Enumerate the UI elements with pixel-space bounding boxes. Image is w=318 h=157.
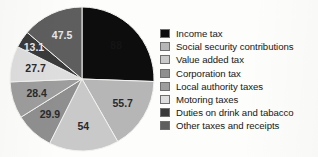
pie-slice-value-label: 88 — [110, 39, 122, 51]
legend-item[interactable]: Local authority taxes — [160, 80, 312, 93]
legend-item[interactable]: Social security contributions — [160, 40, 312, 53]
chart-legend: Income taxSocial security contributionsV… — [160, 27, 312, 133]
legend-item-label: Other taxes and receipts — [176, 120, 279, 131]
pie-slice-value-label: 47.5 — [52, 29, 73, 41]
legend-item-label: Local authority taxes — [176, 81, 263, 92]
legend-item[interactable]: Other taxes and receipts — [160, 119, 312, 132]
pie-chart-plot-area: 8855.75429.928.427.713.147.5 — [8, 4, 156, 154]
legend-color-swatch — [160, 95, 170, 104]
legend-item-label: Corporation tax — [176, 68, 241, 79]
pie-slice-value-label: 28.4 — [26, 87, 47, 99]
legend-item-label: Value added tax — [176, 54, 244, 65]
pie-slice-value-label: 55.7 — [112, 97, 133, 109]
legend-item-label: Duties on drink and tabacco — [176, 107, 294, 118]
pie-slice-value-label: 27.7 — [25, 62, 46, 74]
legend-color-swatch — [160, 108, 170, 117]
pie-slice-value-label: 13.1 — [24, 41, 45, 53]
legend-color-swatch — [160, 82, 170, 91]
legend-color-swatch — [160, 42, 170, 51]
legend-item-label: Motoring taxes — [176, 94, 238, 105]
pie-svg: 8855.75429.928.427.713.147.5 — [8, 4, 156, 154]
legend-item-label: Income tax — [176, 28, 222, 39]
legend-item[interactable]: Value added tax — [160, 53, 312, 66]
legend-item[interactable]: Duties on drink and tabacco — [160, 106, 312, 119]
legend-color-swatch — [160, 55, 170, 64]
pie-slice-value-label: 29.9 — [40, 108, 61, 120]
pie-chart-figure: 8855.75429.928.427.713.147.5 Income taxS… — [0, 0, 318, 157]
legend-item-label: Social security contributions — [176, 41, 293, 52]
legend-item[interactable]: Income tax — [160, 27, 312, 40]
legend-color-swatch — [160, 29, 170, 38]
legend-color-swatch — [160, 69, 170, 78]
pie-slice-value-label: 54 — [77, 120, 89, 132]
legend-item[interactable]: Corporation tax — [160, 67, 312, 80]
legend-color-swatch — [160, 121, 170, 130]
legend-item[interactable]: Motoring taxes — [160, 93, 312, 106]
